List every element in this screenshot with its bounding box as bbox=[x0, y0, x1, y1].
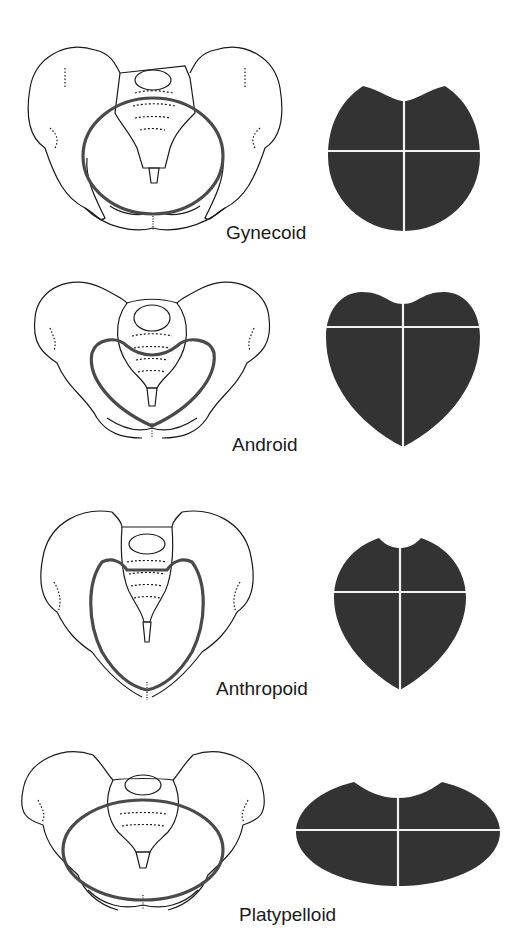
inlet-shape-gynecoid bbox=[328, 86, 480, 231]
pelvis-drawing-platypelloid bbox=[18, 740, 268, 915]
pelvis-drawing-android bbox=[32, 268, 272, 448]
panel-gynecoid: Gynecoid bbox=[0, 0, 523, 250]
panel-android: Android bbox=[0, 250, 523, 490]
label-android: Android bbox=[232, 434, 298, 456]
label-anthropoid: Anthropoid bbox=[216, 678, 308, 700]
label-platypelloid: Platypelloid bbox=[239, 904, 336, 926]
inlet-shape-anthropoid bbox=[334, 538, 466, 690]
inlet-shape-android bbox=[326, 292, 480, 447]
pelvis-drawing-gynecoid bbox=[25, 38, 285, 238]
inlet-shape-platypelloid bbox=[296, 782, 500, 886]
label-gynecoid: Gynecoid bbox=[226, 222, 306, 244]
pelvis-drawing-anthropoid bbox=[32, 502, 262, 702]
panel-anthropoid: Anthropoid bbox=[0, 490, 523, 730]
panel-platypelloid: Platypelloid bbox=[0, 730, 523, 938]
